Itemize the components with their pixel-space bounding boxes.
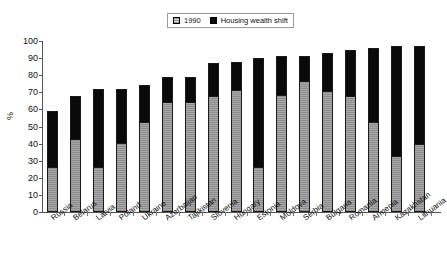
bar-segment-1990: [163, 102, 172, 211]
y-axis-tick-mark: [39, 58, 43, 59]
bar-segment-1990: [277, 95, 286, 211]
bar-segment-1990: [140, 122, 149, 211]
y-axis-tick-mark: [39, 144, 43, 145]
bar-moldova[interactable]: [276, 56, 287, 212]
y-axis-tick-mark: [39, 75, 43, 76]
y-axis-tick-mark: [39, 41, 43, 42]
bar-hungary[interactable]: [231, 62, 242, 212]
bar-russia[interactable]: [47, 111, 58, 212]
bar-segment-1990: [323, 91, 332, 211]
legend-item-1990: 1990: [173, 17, 201, 25]
y-axis-tick-mark: [39, 161, 43, 162]
bar-tajikistan[interactable]: [185, 77, 196, 212]
chart-legend: 1990 Housing wealth shift: [167, 13, 294, 28]
bar-azerbaijan[interactable]: [162, 77, 173, 212]
bar-armenia[interactable]: [368, 48, 379, 212]
bar-poland[interactable]: [116, 89, 127, 212]
bar-latvia[interactable]: [93, 89, 104, 212]
bar-segment-1990: [48, 167, 57, 211]
legend-item-housing-wealth-shift: Housing wealth shift: [210, 17, 288, 25]
y-axis-label: %: [6, 112, 15, 120]
legend-swatch-1990-icon: [173, 17, 180, 24]
bar-serbia[interactable]: [299, 56, 310, 212]
legend-label-1990: 1990: [184, 17, 201, 25]
y-axis-tick-mark: [39, 195, 43, 196]
bar-belarus[interactable]: [70, 96, 81, 212]
bar-lithuania[interactable]: [414, 46, 425, 212]
bar-romania[interactable]: [345, 50, 356, 212]
legend-swatch-housing-wealth-shift-icon: [210, 17, 217, 24]
bar-segment-1990: [117, 143, 126, 211]
stacked-bar-chart: 1990 Housing wealth shift % 010203040506…: [0, 0, 447, 278]
bar-segment-1990: [71, 139, 80, 211]
y-axis-tick-mark: [39, 92, 43, 93]
bar-segment-1990: [346, 96, 355, 211]
bar-bulgaria[interactable]: [322, 53, 333, 212]
y-axis-tick-mark: [39, 212, 43, 213]
bar-segment-1990: [209, 96, 218, 211]
y-axis-tick-mark: [39, 127, 43, 128]
y-axis-tick-mark: [39, 109, 43, 110]
bar-estonia[interactable]: [253, 58, 264, 212]
bar-segment-1990: [300, 81, 309, 211]
plot-area: 0102030405060708090100: [43, 41, 441, 212]
bar-slovenia[interactable]: [208, 63, 219, 212]
bar-ukraine[interactable]: [139, 85, 150, 212]
y-axis-tick-mark: [39, 178, 43, 179]
bar-segment-1990: [232, 90, 241, 211]
legend-label-housing-wealth-shift: Housing wealth shift: [221, 17, 288, 25]
bar-kazakhstan[interactable]: [391, 46, 402, 212]
